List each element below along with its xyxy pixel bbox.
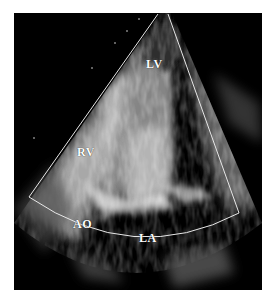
label-aorta: AO (73, 218, 92, 230)
label-left-ventricle: LV (146, 58, 163, 70)
ultrasound-image: LV RV AO LA (14, 13, 262, 290)
label-left-atrium: LA (139, 232, 157, 244)
label-right-ventricle: RV (77, 146, 95, 158)
ultrasound-scan-graphic (14, 13, 262, 290)
